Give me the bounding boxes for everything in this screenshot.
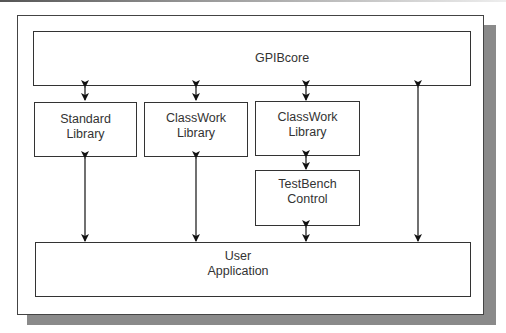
connector-arrows (0, 0, 506, 333)
